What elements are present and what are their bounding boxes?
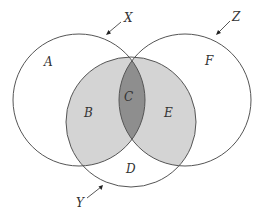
region-label-b: B: [83, 106, 93, 120]
region-label-a: A: [43, 55, 53, 69]
set-label-x: X: [123, 11, 133, 25]
arrow-z-icon: [216, 21, 230, 35]
region-label-f: F: [204, 54, 214, 68]
region-label-e: E: [163, 106, 173, 120]
arrow-x-icon: [106, 22, 121, 35]
arrow-y-icon: [87, 185, 103, 198]
region-label-d: D: [125, 162, 136, 176]
set-label-y: Y: [76, 196, 85, 210]
set-label-z: Z: [231, 10, 241, 24]
venn-diagram: X Z Y A B C D E F: [0, 0, 260, 218]
region-label-c: C: [124, 90, 133, 104]
